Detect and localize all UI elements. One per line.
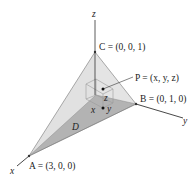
region-d-label: D [71, 122, 79, 132]
z-axis-label: z [91, 9, 96, 19]
point-p-dot [102, 88, 105, 91]
tetrahedron-diagram: z y x C = (0, 0, 1) B = (0, 1, 0) A = (3… [0, 0, 196, 179]
vertex-a-dot [28, 155, 30, 157]
y-axis-label: y [182, 116, 188, 126]
coord-y-label: y [106, 104, 112, 114]
point-foot-dot [102, 107, 105, 110]
x-axis-label: x [9, 166, 15, 176]
vertex-c-label: C = (0, 0, 1) [99, 42, 146, 53]
y-axis-outer [136, 104, 183, 118]
vertex-a-label: A = (3, 0, 0) [29, 161, 76, 172]
coord-z-label: z [103, 93, 108, 103]
vertex-b-label: B = (0, 1, 0) [140, 94, 187, 105]
vertex-b-dot [135, 103, 137, 105]
point-p-label: P = (x, y, z) [135, 73, 179, 84]
coord-x-label: x [90, 105, 96, 115]
x-axis-outer [17, 156, 29, 166]
vertex-c-dot [94, 51, 96, 53]
